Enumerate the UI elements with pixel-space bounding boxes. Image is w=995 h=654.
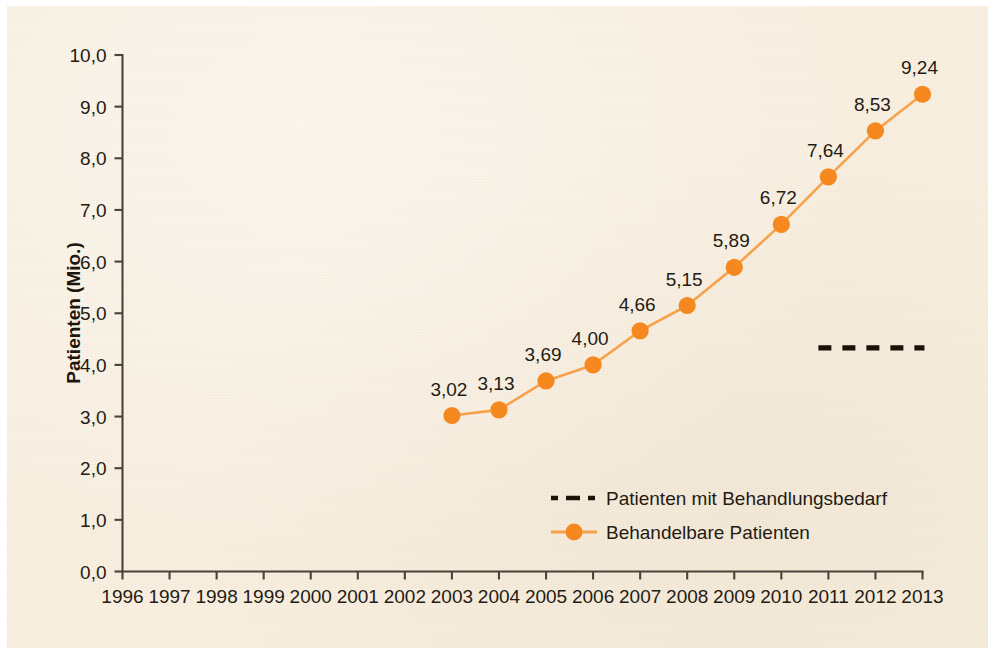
legend-label-0: Patienten mit Behandlungsbedarf [606, 488, 888, 509]
y-tick-label: 2,0 [80, 458, 106, 479]
y-tick-label: 9,0 [80, 97, 106, 118]
y-tick-label: 5,0 [80, 303, 106, 324]
data-point-label: 3,13 [477, 373, 514, 394]
data-point-label: 7,64 [807, 140, 844, 161]
x-tick-label: 2010 [760, 586, 802, 607]
legend-label-1: Behandelbare Patienten [606, 522, 810, 543]
data-point-marker [914, 86, 931, 103]
y-tick-label: 4,0 [80, 355, 106, 376]
data-point-marker [443, 407, 460, 424]
data-point-marker [537, 372, 554, 389]
data-point-marker [490, 401, 507, 418]
x-tick-label: 2003 [431, 586, 473, 607]
data-point-marker [679, 297, 696, 314]
x-tick-label: 2008 [666, 586, 708, 607]
series-data-labels: 3,023,133,694,004,665,155,896,727,648,53… [430, 57, 938, 399]
y-tick-label: 8,0 [80, 148, 106, 169]
data-point-marker [820, 168, 837, 185]
data-point-label: 3,02 [430, 379, 467, 400]
y-tick-label: 6,0 [80, 252, 106, 273]
chart-page: 0,01,02,03,04,05,06,07,08,09,010,0 19961… [0, 0, 995, 654]
data-point-label: 8,53 [854, 94, 891, 115]
line-chart: 0,01,02,03,04,05,06,07,08,09,010,0 19961… [0, 0, 995, 654]
x-tick-label: 2001 [337, 586, 379, 607]
data-point-marker [773, 216, 790, 233]
data-point-label: 9,24 [901, 57, 938, 78]
legend-item-patienten-mit-behandlungsbedarf: Patienten mit Behandlungsbedarf [551, 488, 888, 509]
x-tick-label: 2013 [901, 586, 943, 607]
x-tick-label: 2007 [619, 586, 661, 607]
x-tick-label: 1996 [101, 586, 143, 607]
x-tick-label: 1998 [195, 586, 237, 607]
data-point-label: 4,00 [572, 328, 609, 349]
series-line-behandelbare-patienten [452, 94, 923, 415]
x-tick-label: 1997 [148, 586, 190, 607]
y-tick-label: 3,0 [80, 407, 106, 428]
x-tick-label: 2000 [290, 586, 332, 607]
data-point-label: 6,72 [760, 187, 797, 208]
y-tick-label: 0,0 [80, 562, 106, 583]
legend-circle-marker [566, 524, 583, 541]
x-tick-label: 2012 [854, 586, 896, 607]
x-tick-label: 1999 [243, 586, 285, 607]
x-tick-label: 2006 [572, 586, 614, 607]
series-markers-behandelbare-patienten [443, 86, 931, 424]
y-tick-label: 7,0 [80, 200, 106, 221]
x-tick-label: 2005 [525, 586, 567, 607]
data-point-label: 5,89 [713, 230, 750, 251]
data-point-marker [584, 356, 601, 373]
y-tick-label: 1,0 [80, 510, 106, 531]
y-tick-label: 10,0 [70, 45, 107, 66]
legend-item-behandelbare-patienten: Behandelbare Patienten [551, 522, 810, 543]
y-axis-title: Patienten (Mio.) [63, 242, 84, 383]
x-tick-label: 2002 [384, 586, 426, 607]
data-point-label: 5,15 [666, 269, 703, 290]
x-tick-label: 2004 [478, 586, 521, 607]
data-point-marker [632, 322, 649, 339]
data-point-marker [726, 259, 743, 276]
data-point-label: 3,69 [525, 344, 562, 365]
x-tick-label: 2011 [808, 586, 849, 607]
x-axis-ticks: 1996199719981999200020012002200320042005… [101, 572, 943, 607]
data-point-marker [867, 122, 884, 139]
legend: Patienten mit Behandlungsbedarf Behandel… [551, 488, 888, 543]
x-tick-label: 2009 [713, 586, 755, 607]
data-point-label: 4,66 [619, 294, 656, 315]
